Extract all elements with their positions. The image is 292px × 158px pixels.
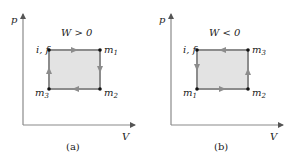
label-if: i, f (183, 44, 199, 55)
x-axis-label: V (270, 131, 279, 142)
point-m2 (246, 87, 250, 91)
y-axis-label: p (159, 14, 166, 25)
point-m2 (98, 87, 102, 91)
work-label: W > 0 (61, 27, 93, 38)
panel-b: p V W < 0 i, f m3 m2 m1 (b) (159, 14, 283, 152)
work-label: W < 0 (209, 27, 241, 38)
x-axis-label: V (122, 131, 131, 142)
y-axis-label: p (11, 14, 18, 25)
point-m1 (98, 48, 102, 52)
label-top-right: m1 (104, 44, 118, 57)
point-m3 (246, 48, 250, 52)
caption-b: (b) (214, 141, 228, 152)
cycle-region (49, 50, 100, 89)
label-bottom-right: m2 (252, 87, 266, 100)
point-m3 (47, 87, 51, 91)
pv-diagrams: p V W > 0 i, f m1 m2 m3 (a) p V W < 0 i,… (0, 0, 292, 158)
label-if: i, f (36, 44, 52, 55)
label-bottom-right: m2 (104, 87, 118, 100)
panel-a: p V W > 0 i, f m1 m2 m3 (a) (11, 14, 135, 152)
cycle-region (197, 50, 248, 89)
label-top-right: m3 (252, 44, 266, 57)
point-m1 (195, 87, 199, 91)
label-bottom-left: m1 (183, 87, 197, 100)
caption-a: (a) (66, 141, 80, 152)
